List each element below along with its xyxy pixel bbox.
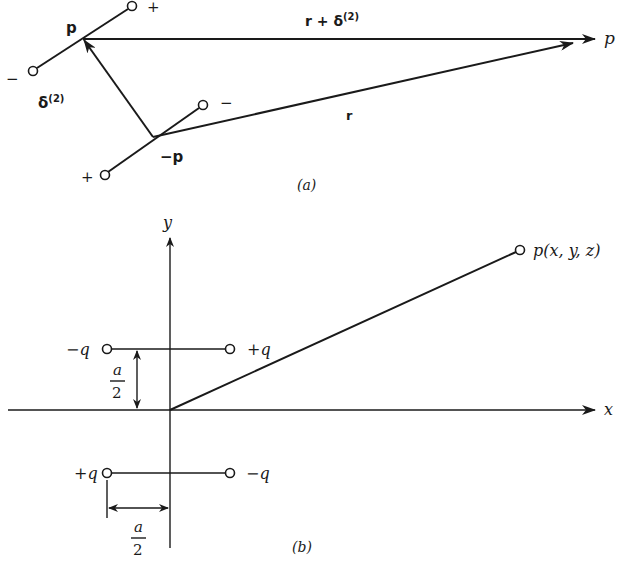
dipole-neg-p-minus-charge (199, 101, 208, 110)
r-vector-label: r (346, 108, 353, 123)
position-line (170, 252, 516, 410)
caption-a: (a) (297, 177, 316, 193)
svg-text:a: a (134, 518, 143, 536)
horizontal-dimension-label: a 2 (131, 518, 146, 559)
dipole-neg-p-plus-charge (101, 171, 110, 180)
upper-right-charge-label: +q (247, 340, 271, 359)
dipole-p-label: p (66, 19, 77, 37)
dipole-p: p + − (6, 0, 160, 88)
r-vector-arrow (153, 43, 573, 137)
y-axis-label: y (162, 213, 173, 232)
svg-text:a: a (113, 361, 122, 379)
upper-dipole: −q +q (66, 340, 271, 359)
dipole-neg-p-rod (108, 108, 199, 172)
delta-vector-arrow (84, 40, 153, 137)
lower-left-charge-label: +q (74, 464, 98, 483)
lower-right-charge-marker (226, 469, 235, 478)
lower-dipole: +q −q (74, 464, 270, 483)
svg-text:2: 2 (133, 541, 143, 559)
figure-canvas: p + − −p + − δ(2) r + δ(2) r p (a) y (0, 0, 619, 567)
dipole-neg-p: −p + − (81, 94, 233, 186)
field-point-marker (516, 246, 525, 255)
upper-left-charge-label: −q (66, 340, 90, 359)
dipole-p-minus-charge (29, 67, 38, 76)
x-axis-label: x (604, 400, 613, 419)
lower-left-charge-marker (103, 469, 112, 478)
field-point-label-b: p(x, y, z) (533, 241, 600, 260)
dipole-neg-p-label: −p (160, 148, 184, 166)
dipole-neg-p-plus-sign: + (81, 168, 94, 186)
svg-text:2: 2 (112, 384, 122, 402)
caption-b: (b) (292, 539, 312, 555)
vertical-dimension-label: a 2 (110, 361, 125, 402)
upper-right-charge-marker (226, 345, 235, 354)
figure-a: p + − −p + − δ(2) r + δ(2) r p (a) (6, 0, 615, 193)
delta-vector-label: δ(2) (38, 93, 64, 112)
upper-left-charge-marker (103, 345, 112, 354)
dipole-p-plus-charge (128, 2, 137, 11)
r-plus-delta-label: r + δ(2) (305, 11, 359, 29)
dipole-p-minus-sign: − (6, 70, 19, 88)
lower-right-charge-label: −q (246, 464, 270, 483)
dipole-p-plus-sign: + (147, 0, 160, 16)
field-point-label-a: p (604, 28, 615, 48)
dipole-neg-p-minus-sign: − (220, 94, 233, 112)
figure-b: y x −q +q +q −q a 2 a (8, 213, 613, 559)
